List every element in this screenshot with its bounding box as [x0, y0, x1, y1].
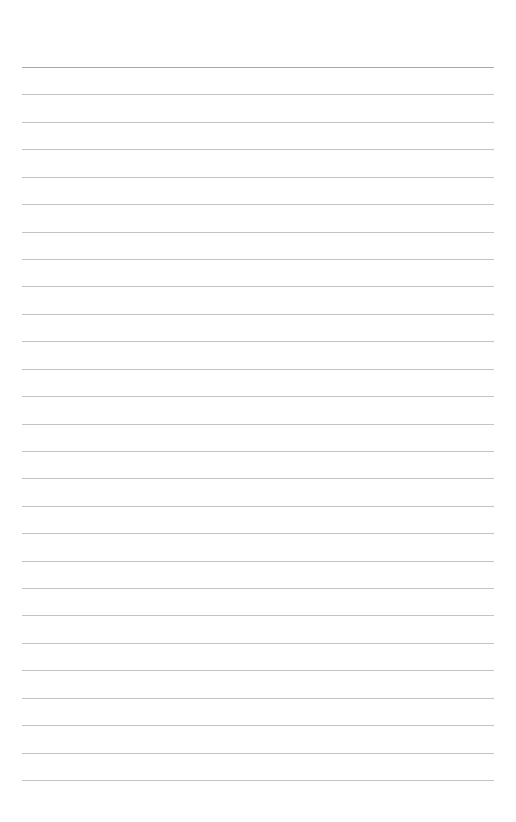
ruled-line [22, 369, 494, 370]
ruled-line [22, 177, 494, 178]
ruled-line [22, 122, 494, 123]
ruled-line [22, 698, 494, 699]
ruled-line [22, 533, 494, 534]
ruled-line [22, 670, 494, 671]
ruled-line [22, 643, 494, 644]
ruled-line [22, 94, 494, 95]
ruled-line [22, 753, 494, 754]
ruled-line [22, 725, 494, 726]
ruled-line [22, 314, 494, 315]
ruled-line [22, 780, 494, 781]
ruled-line [22, 396, 494, 397]
ruled-line [22, 204, 494, 205]
ruled-line [22, 561, 494, 562]
ruled-line [22, 478, 494, 479]
ruled-line [22, 286, 494, 287]
ruled-line [22, 424, 494, 425]
ruled-line [22, 232, 494, 233]
ruled-paper-sheet [0, 0, 516, 822]
ruled-line [22, 341, 494, 342]
ruled-line [22, 67, 494, 68]
ruled-line [22, 259, 494, 260]
ruled-line [22, 588, 494, 589]
ruled-line [22, 615, 494, 616]
ruled-line [22, 149, 494, 150]
ruled-line [22, 451, 494, 452]
ruled-line [22, 506, 494, 507]
